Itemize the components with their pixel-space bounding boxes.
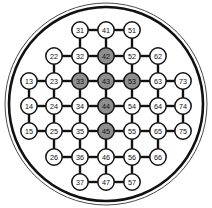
grid-node-35[interactable]: 35 xyxy=(72,123,88,139)
node-circle[interactable] xyxy=(46,123,62,139)
grid-node-56[interactable]: 56 xyxy=(124,149,140,165)
node-circle[interactable] xyxy=(98,73,114,89)
node-circle[interactable] xyxy=(98,149,114,165)
node-circle[interactable] xyxy=(46,73,62,89)
grid-node-73[interactable]: 73 xyxy=(175,73,191,89)
node-circle[interactable] xyxy=(150,48,166,64)
node-circle[interactable] xyxy=(124,98,140,114)
grid-node-45[interactable]: 45 xyxy=(98,123,114,139)
grid-node-74[interactable]: 74 xyxy=(175,98,191,114)
node-circle[interactable] xyxy=(150,123,166,139)
grid-node-36[interactable]: 36 xyxy=(72,149,88,165)
grid-node-37[interactable]: 37 xyxy=(72,174,88,190)
grid-node-43[interactable]: 43 xyxy=(98,73,114,89)
grid-node-41[interactable]: 41 xyxy=(98,22,114,38)
grid-node-34[interactable]: 34 xyxy=(72,98,88,114)
node-circle[interactable] xyxy=(175,73,191,89)
grid-node-54[interactable]: 54 xyxy=(124,98,140,114)
grid-node-31[interactable]: 31 xyxy=(72,22,88,38)
node-circle[interactable] xyxy=(124,48,140,64)
grid-node-25[interactable]: 25 xyxy=(46,123,62,139)
grid-node-64[interactable]: 64 xyxy=(150,98,166,114)
node-circle[interactable] xyxy=(21,98,37,114)
node-circle[interactable] xyxy=(124,149,140,165)
node-circle[interactable] xyxy=(175,123,191,139)
node-circle[interactable] xyxy=(98,98,114,114)
grid-node-55[interactable]: 55 xyxy=(124,123,140,139)
grid-node-47[interactable]: 47 xyxy=(98,174,114,190)
node-circle[interactable] xyxy=(124,174,140,190)
grid-node-15[interactable]: 15 xyxy=(21,123,37,139)
node-circle[interactable] xyxy=(72,149,88,165)
node-circle[interactable] xyxy=(124,73,140,89)
grid-node-53[interactable]: 53 xyxy=(124,73,140,89)
grid-node-42[interactable]: 42 xyxy=(98,48,114,64)
node-circle[interactable] xyxy=(98,123,114,139)
grid-node-46[interactable]: 46 xyxy=(98,149,114,165)
grid-node-65[interactable]: 65 xyxy=(150,123,166,139)
grid-node-14[interactable]: 14 xyxy=(21,98,37,114)
wafer-diagram-canvas: 3141512232425262132333435363731424344454… xyxy=(0,0,212,208)
grid-node-62[interactable]: 62 xyxy=(150,48,166,64)
node-circle[interactable] xyxy=(21,123,37,139)
grid-node-66[interactable]: 66 xyxy=(150,149,166,165)
node-circle[interactable] xyxy=(46,149,62,165)
node-circle[interactable] xyxy=(98,48,114,64)
grid-nodes-layer: 3141512232425262132333435363731424344454… xyxy=(21,22,191,190)
grid-node-26[interactable]: 26 xyxy=(46,149,62,165)
grid-node-22[interactable]: 22 xyxy=(46,48,62,64)
node-circle[interactable] xyxy=(46,98,62,114)
grid-node-75[interactable]: 75 xyxy=(175,123,191,139)
node-circle[interactable] xyxy=(72,48,88,64)
node-circle[interactable] xyxy=(72,123,88,139)
node-circle[interactable] xyxy=(98,22,114,38)
node-circle[interactable] xyxy=(150,73,166,89)
node-circle[interactable] xyxy=(124,123,140,139)
node-circle[interactable] xyxy=(150,149,166,165)
node-circle[interactable] xyxy=(124,22,140,38)
node-circle[interactable] xyxy=(175,98,191,114)
wafer-node-grid-figure: 3141512232425262132333435363731424344454… xyxy=(0,0,212,208)
grid-node-44[interactable]: 44 xyxy=(98,98,114,114)
grid-node-32[interactable]: 32 xyxy=(72,48,88,64)
node-circle[interactable] xyxy=(46,48,62,64)
grid-node-63[interactable]: 63 xyxy=(150,73,166,89)
node-circle[interactable] xyxy=(21,73,37,89)
grid-node-57[interactable]: 57 xyxy=(124,174,140,190)
grid-node-24[interactable]: 24 xyxy=(46,98,62,114)
grid-node-23[interactable]: 23 xyxy=(46,73,62,89)
node-circle[interactable] xyxy=(72,73,88,89)
grid-node-52[interactable]: 52 xyxy=(124,48,140,64)
grid-node-51[interactable]: 51 xyxy=(124,22,140,38)
node-circle[interactable] xyxy=(72,174,88,190)
grid-node-13[interactable]: 13 xyxy=(21,73,37,89)
node-circle[interactable] xyxy=(72,22,88,38)
node-circle[interactable] xyxy=(98,174,114,190)
grid-node-33[interactable]: 33 xyxy=(72,73,88,89)
node-circle[interactable] xyxy=(150,98,166,114)
node-circle[interactable] xyxy=(72,98,88,114)
